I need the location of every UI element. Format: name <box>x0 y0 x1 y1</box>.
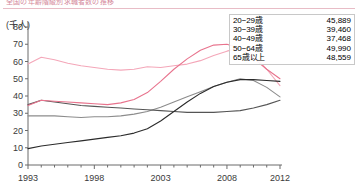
y-tick-label: 20 <box>13 126 23 136</box>
x-tick-label: 2003 <box>151 173 171 183</box>
legend-label: 50−64歳 <box>233 44 263 53</box>
y-axis-ticks: 01020304050607080 <box>13 22 28 170</box>
series-line <box>28 80 280 149</box>
y-tick-label: 50 <box>13 74 23 84</box>
y-tick-label: 30 <box>13 108 23 118</box>
x-tick-label: 2008 <box>217 173 237 183</box>
x-tick-label: 2012 <box>270 173 290 183</box>
y-tick-label: 10 <box>13 143 23 153</box>
y-tick-label: 60 <box>13 57 23 67</box>
y-tick-label: 70 <box>13 39 23 49</box>
chart-container: 全国の年齢階級別求職者数の推移 (千人) 01020304050607080 1… <box>0 0 361 193</box>
legend: 20−29歳 45,889 30−39歳 39,460 40−49歳 37,46… <box>229 14 355 65</box>
legend-row: 40−49歳 37,468 <box>233 34 351 43</box>
legend-row: 65歳以上 48,559 <box>233 53 351 62</box>
legend-value: 45,889 <box>327 16 351 25</box>
legend-value: 37,468 <box>327 34 351 43</box>
x-tick-label: 1998 <box>84 173 104 183</box>
legend-value: 39,460 <box>327 25 351 34</box>
x-tick-label: 1993 <box>18 173 38 183</box>
y-tick-label: 0 <box>18 160 23 170</box>
legend-row: 50−64歳 49,990 <box>233 44 351 53</box>
legend-label: 20−29歳 <box>233 16 263 25</box>
legend-label: 40−49歳 <box>233 34 263 43</box>
legend-value: 48,559 <box>327 53 351 62</box>
y-tick-label: 40 <box>13 91 23 101</box>
legend-label: 65歳以上 <box>233 53 265 62</box>
x-axis-ticks: 19931998200320082012 <box>18 165 290 183</box>
legend-value: 49,990 <box>327 44 351 53</box>
y-tick-label: 80 <box>13 22 23 32</box>
series-line <box>28 79 280 118</box>
legend-row: 20−29歳 45,889 <box>233 16 351 25</box>
